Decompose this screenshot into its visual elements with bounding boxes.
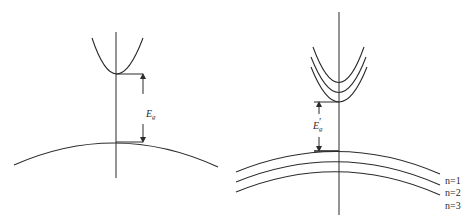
quantum-well-band-diagram: Eg′ n=1 n=2 n=3 xyxy=(236,12,461,215)
subband-label-n1: n=1 xyxy=(445,175,461,186)
conduction-band-parabola xyxy=(92,38,143,74)
subband-label-n2: n=2 xyxy=(445,187,461,198)
bandgap-label-eg-prime: Eg′ xyxy=(312,116,323,133)
valence-subband-3 xyxy=(236,172,440,195)
bandgap-label-eg: Eg xyxy=(145,108,156,121)
valence-subband-1 xyxy=(236,151,440,174)
band-diagram-canvas: Eg Eg′ n=1 n=2 n=3 xyxy=(0,0,468,224)
subband-label-n3: n=3 xyxy=(445,200,461,211)
bulk-band-diagram: Eg xyxy=(14,32,218,178)
